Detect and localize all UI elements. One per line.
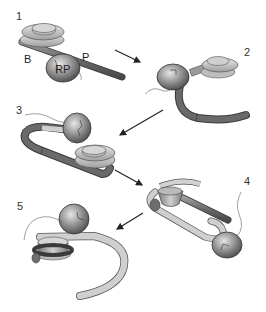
- step-number-1: 1: [16, 11, 22, 22]
- step-number-4: 4: [244, 176, 250, 187]
- arrow-4-to-5: [117, 213, 143, 229]
- step-number-3: 3: [16, 105, 22, 116]
- step-3-structure: [25, 113, 115, 174]
- label-RP: RP: [55, 64, 70, 75]
- step-number-2: 2: [244, 47, 250, 58]
- arrow-2-to-3: [120, 110, 163, 135]
- diagram-svg: [0, 0, 266, 312]
- arrow-1-to-2: [115, 50, 140, 62]
- step-number-5: 5: [17, 201, 23, 212]
- step-1-structure: [20, 24, 122, 83]
- label-P: P: [82, 52, 89, 63]
- step-4-structure: [150, 181, 242, 258]
- label-B: B: [24, 54, 31, 65]
- step-5-structure: [24, 204, 124, 296]
- diagram-canvas: 1 2 3 4 5 B RP P: [0, 0, 266, 312]
- arrow-3-to-4: [115, 170, 142, 185]
